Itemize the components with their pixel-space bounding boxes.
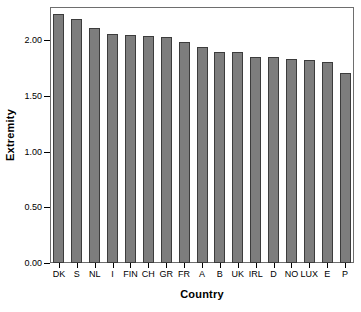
x-axis-tick-label: S bbox=[74, 269, 80, 280]
bar bbox=[214, 52, 225, 263]
x-axis-tick-labels: DKSNLIFINCHGRFRABUKIRLDNOLUXEP bbox=[50, 269, 354, 283]
x-axis-tick-mark bbox=[327, 263, 328, 268]
x-axis-tick-label: NL bbox=[89, 269, 101, 280]
x-axis-tick-mark bbox=[166, 263, 167, 268]
bar bbox=[179, 42, 190, 263]
x-axis-tick-label: LUX bbox=[301, 269, 319, 280]
x-axis-title: Country bbox=[50, 288, 354, 300]
bar bbox=[107, 34, 118, 263]
bar bbox=[232, 52, 243, 263]
bar bbox=[322, 62, 333, 263]
bar bbox=[143, 36, 154, 263]
x-axis-tick-mark bbox=[256, 263, 257, 268]
x-axis-tick-mark bbox=[95, 263, 96, 268]
bar bbox=[250, 57, 261, 263]
bar bbox=[340, 73, 351, 263]
bar-chart: Extremity 0.000.501.001.502.00 DKSNLIFIN… bbox=[0, 0, 361, 312]
x-axis-tick-mark bbox=[130, 263, 131, 268]
x-axis-tick-label: GR bbox=[159, 269, 173, 280]
x-axis-tick-mark bbox=[77, 263, 78, 268]
x-axis-tick-label: IRL bbox=[249, 269, 263, 280]
bar bbox=[161, 37, 172, 263]
x-axis-tick-mark bbox=[202, 263, 203, 268]
x-axis-tick-label: CH bbox=[142, 269, 155, 280]
x-axis-tick-mark bbox=[220, 263, 221, 268]
bars-layer bbox=[50, 7, 354, 263]
bar bbox=[125, 35, 136, 263]
x-axis-tick-mark bbox=[59, 263, 60, 268]
x-axis-tick-mark bbox=[148, 263, 149, 268]
x-axis-tick-mark bbox=[291, 263, 292, 268]
x-axis-tick-mark bbox=[309, 263, 310, 268]
x-axis-tick-mark bbox=[113, 263, 114, 268]
bar bbox=[304, 60, 315, 263]
x-axis-tick-mark bbox=[184, 263, 185, 268]
x-axis-tick-mark bbox=[274, 263, 275, 268]
x-axis-tick-mark bbox=[238, 263, 239, 268]
bar bbox=[286, 59, 297, 263]
x-axis-tick-label: P bbox=[342, 269, 348, 280]
bar bbox=[268, 57, 279, 263]
x-axis-tick-label: D bbox=[270, 269, 277, 280]
x-axis-tick-label: FIN bbox=[123, 269, 138, 280]
x-axis-tick-mark bbox=[345, 263, 346, 268]
x-axis-tick-label: UK bbox=[231, 269, 244, 280]
x-axis-tick-label: A bbox=[199, 269, 205, 280]
x-axis-tick-label: E bbox=[324, 269, 330, 280]
x-axis-tick-label: NO bbox=[285, 269, 299, 280]
bar bbox=[53, 14, 64, 263]
bar bbox=[89, 28, 100, 263]
x-axis-tick-label: DK bbox=[53, 269, 66, 280]
x-axis-tick-label: I bbox=[111, 269, 114, 280]
bar bbox=[197, 47, 208, 263]
x-axis-tick-label: B bbox=[217, 269, 223, 280]
bar bbox=[71, 19, 82, 263]
x-axis-tick-label: FR bbox=[178, 269, 190, 280]
